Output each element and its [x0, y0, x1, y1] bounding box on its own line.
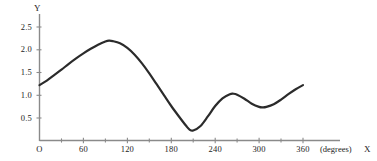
- chart-figure: 0.5 1.0 1.5 2.0 2.5 O 60 120 180 240 360…: [0, 0, 377, 161]
- y-tick-label-3: 2.0: [4, 44, 32, 54]
- x-tick-label-3: 180: [161, 144, 181, 154]
- x-tick-label-4: 240: [205, 144, 225, 154]
- y-tick-label-4: 2.5: [4, 22, 32, 32]
- y-tick-label-0: 0.5: [4, 113, 32, 123]
- x-axis-title: X: [364, 144, 371, 154]
- x-tick-label-5: 300: [249, 144, 269, 154]
- y-axis-title: Y: [34, 3, 41, 13]
- data-curve: [40, 41, 304, 131]
- x-tick-label-2: 120: [117, 144, 137, 154]
- y-tick-label-1: 1.0: [4, 90, 32, 100]
- x-tick-label-6: 360: [293, 144, 313, 154]
- x-axis-units: (degrees): [320, 144, 352, 154]
- y-tick-label-2: 1.5: [4, 67, 32, 77]
- chart-plot-area: [0, 0, 377, 161]
- x-tick-label-1: 60: [74, 144, 92, 154]
- x-tick-label-0: O: [34, 144, 46, 154]
